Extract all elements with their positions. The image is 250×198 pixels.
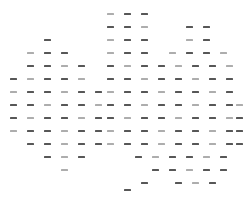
- dash-mark: [152, 156, 159, 158]
- dash-mark: [226, 117, 233, 119]
- dash-mark: [175, 78, 182, 80]
- dash-mark: [78, 130, 85, 132]
- dash-mark: [141, 39, 148, 41]
- dash-mark: [141, 78, 148, 80]
- dash-mark: [186, 39, 193, 41]
- dash-mark: [158, 78, 165, 80]
- dash-mark: [236, 143, 243, 145]
- dash-mark: [203, 39, 210, 41]
- dash-mark: [95, 91, 102, 93]
- dash-mark: [192, 104, 199, 106]
- dash-mark: [44, 117, 51, 119]
- dash-mark: [169, 52, 176, 54]
- dash-mark: [158, 65, 165, 67]
- dash-mark: [141, 130, 148, 132]
- dash-mark: [158, 117, 165, 119]
- dash-mark: [175, 65, 182, 67]
- dash-mark: [44, 143, 51, 145]
- dash-mark: [169, 156, 176, 158]
- dash-mark: [44, 156, 51, 158]
- dash-mark: [10, 130, 17, 132]
- dash-mark: [236, 104, 243, 106]
- dash-mark: [158, 143, 165, 145]
- dash-mark: [107, 91, 114, 93]
- dash-mark: [209, 130, 216, 132]
- dash-mark: [124, 65, 131, 67]
- dash-mark: [209, 78, 216, 80]
- dash-mark: [175, 117, 182, 119]
- dash-mark: [186, 52, 193, 54]
- dash-mark: [61, 104, 68, 106]
- dash-matrix-canvas: [0, 0, 250, 198]
- dash-mark: [175, 91, 182, 93]
- dash-mark: [141, 13, 148, 15]
- dash-mark: [107, 143, 114, 145]
- dash-mark: [175, 143, 182, 145]
- dash-mark: [61, 91, 68, 93]
- dash-mark: [152, 169, 159, 171]
- dash-mark: [44, 104, 51, 106]
- dash-mark: [226, 78, 233, 80]
- dash-mark: [226, 104, 233, 106]
- dash-mark: [78, 78, 85, 80]
- dash-mark: [209, 104, 216, 106]
- dash-mark: [175, 130, 182, 132]
- dash-mark: [27, 130, 34, 132]
- dash-mark: [10, 78, 17, 80]
- dash-mark: [61, 52, 68, 54]
- dash-mark: [209, 91, 216, 93]
- dash-mark: [141, 91, 148, 93]
- dash-mark: [107, 65, 114, 67]
- dash-mark: [220, 156, 227, 158]
- dash-mark: [141, 182, 148, 184]
- dash-mark: [27, 52, 34, 54]
- dash-mark: [124, 26, 131, 28]
- dash-mark: [226, 130, 233, 132]
- dash-mark: [192, 78, 199, 80]
- dash-mark: [78, 104, 85, 106]
- dash-mark: [27, 143, 34, 145]
- dash-mark: [78, 65, 85, 67]
- dash-mark: [236, 130, 243, 132]
- dash-mark: [141, 104, 148, 106]
- dash-mark: [124, 130, 131, 132]
- dash-mark: [124, 91, 131, 93]
- dash-mark: [107, 130, 114, 132]
- dash-mark: [10, 104, 17, 106]
- dash-mark: [61, 169, 68, 171]
- dash-mark: [226, 65, 233, 67]
- dash-mark: [124, 39, 131, 41]
- dash-mark: [44, 130, 51, 132]
- dash-mark: [175, 104, 182, 106]
- dash-mark: [44, 52, 51, 54]
- dash-mark: [226, 91, 233, 93]
- dash-mark: [95, 130, 102, 132]
- dash-mark: [192, 117, 199, 119]
- dash-mark: [186, 26, 193, 28]
- dash-mark: [124, 189, 131, 191]
- dash-mark: [44, 78, 51, 80]
- dash-mark: [141, 117, 148, 119]
- dash-mark: [220, 169, 227, 171]
- dash-mark: [44, 65, 51, 67]
- dash-mark: [95, 143, 102, 145]
- dash-mark: [107, 104, 114, 106]
- dash-mark: [107, 26, 114, 28]
- dash-mark: [209, 117, 216, 119]
- dash-mark: [27, 91, 34, 93]
- dash-mark: [27, 117, 34, 119]
- dash-mark: [10, 117, 17, 119]
- dash-mark: [158, 91, 165, 93]
- dash-mark: [27, 104, 34, 106]
- dash-mark: [107, 13, 114, 15]
- dash-mark: [203, 26, 210, 28]
- dash-mark: [78, 143, 85, 145]
- dash-mark: [78, 156, 85, 158]
- dash-mark: [141, 26, 148, 28]
- dash-mark: [186, 169, 193, 171]
- dash-mark: [209, 143, 216, 145]
- dash-mark: [95, 117, 102, 119]
- dash-mark: [124, 78, 131, 80]
- dash-mark: [107, 117, 114, 119]
- dash-mark: [209, 65, 216, 67]
